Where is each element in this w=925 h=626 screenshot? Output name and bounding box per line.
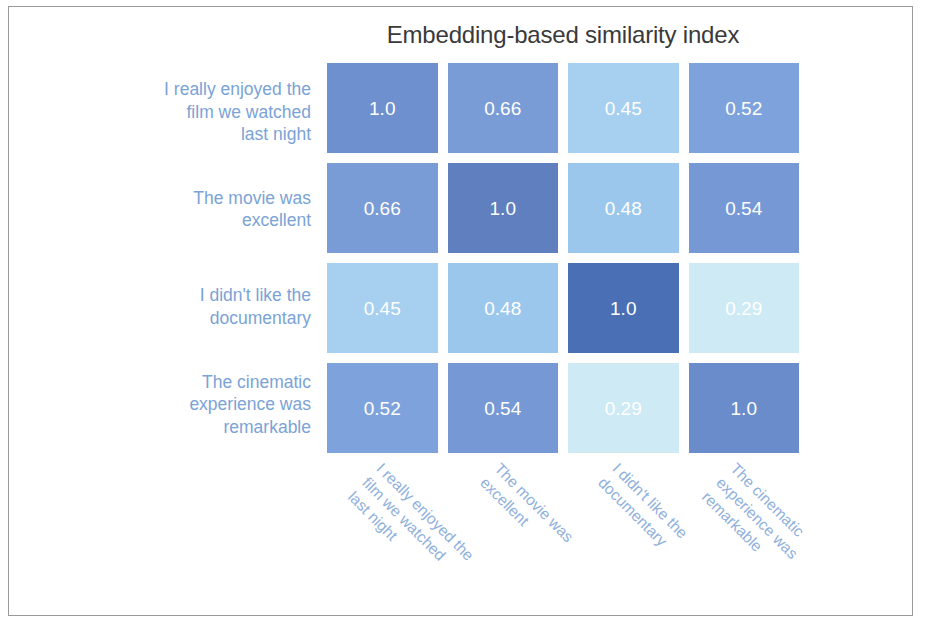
heatmap-cell-value: 0.54 — [484, 399, 521, 418]
page-title: Embedding-based similarity index — [327, 21, 799, 49]
y-tick-line: I really enjoyed the — [164, 78, 311, 101]
x-tick-label-2: I didn't like thedocumentary — [594, 459, 692, 557]
y-tick-line: last night — [164, 123, 311, 146]
heatmap-cell: 1.0 — [568, 263, 679, 353]
heatmap-cell: 0.29 — [689, 263, 800, 353]
heatmap-cell-value: 0.48 — [605, 199, 642, 218]
y-tick-1: The movie was excellent — [97, 161, 319, 259]
heatmap-cell-value: 0.29 — [605, 399, 642, 418]
heatmap-cell: 0.52 — [327, 363, 438, 453]
y-tick-2: I didn't like the documentary — [97, 258, 319, 356]
heatmap-cell-value: 0.52 — [364, 399, 401, 418]
heatmap-cell: 1.0 — [327, 63, 438, 153]
heatmap-cell: 1.0 — [689, 363, 800, 453]
y-axis-tick-labels: I really enjoyed the film we watched las… — [97, 63, 319, 453]
y-tick-0: I really enjoyed the film we watched las… — [97, 63, 319, 161]
y-tick-label-0: I really enjoyed the film we watched las… — [164, 78, 319, 146]
x-tick-0: I really enjoyed thefilm we watchedlast … — [327, 457, 445, 615]
x-tick-3: The cinematicexperience wasremarkable — [681, 457, 799, 615]
heatmap-cell-value: 0.29 — [725, 299, 762, 318]
heatmap-cell: 0.45 — [327, 263, 438, 353]
heatmap-cell: 0.52 — [689, 63, 800, 153]
y-tick-label-1: The movie was excellent — [193, 187, 319, 232]
heatmap-cell-value: 1.0 — [369, 99, 395, 118]
heatmap-cell: 0.48 — [448, 263, 559, 353]
heatmap-cell: 0.66 — [448, 63, 559, 153]
heatmap-cell: 0.66 — [327, 163, 438, 253]
y-tick-line: experience was — [189, 393, 311, 416]
heatmap-cell-value: 0.48 — [484, 299, 521, 318]
y-tick-label-2: I didn't like the documentary — [200, 284, 319, 329]
y-tick-line: remarkable — [189, 416, 311, 439]
y-tick-3: The cinematic experience was remarkable — [97, 356, 319, 454]
figure-panel: Embedding-based similarity index I reall… — [8, 6, 913, 616]
y-tick-label-3: The cinematic experience was remarkable — [189, 371, 319, 439]
y-tick-line: The cinematic — [189, 371, 311, 394]
y-tick-line: excellent — [193, 209, 311, 232]
heatmap-cell-value: 1.0 — [731, 399, 757, 418]
x-axis-tick-labels: I really enjoyed thefilm we watchedlast … — [327, 457, 799, 615]
heatmap-cell: 0.48 — [568, 163, 679, 253]
heatmap-cell: 0.54 — [448, 363, 559, 453]
y-tick-line: documentary — [200, 307, 311, 330]
y-tick-line: I didn't like the — [200, 284, 311, 307]
heatmap-cell-value: 1.0 — [610, 299, 636, 318]
heatmap-cell: 0.29 — [568, 363, 679, 453]
heatmap-grid: 1.00.660.450.520.661.00.480.540.450.481.… — [327, 63, 799, 453]
heatmap-cell-value: 0.52 — [725, 99, 762, 118]
heatmap-cell-value: 0.66 — [364, 199, 401, 218]
heatmap-cell-value: 0.45 — [364, 299, 401, 318]
heatmap-cell-value: 0.45 — [605, 99, 642, 118]
heatmap-cell-value: 0.54 — [725, 199, 762, 218]
heatmap-cell: 1.0 — [448, 163, 559, 253]
heatmap-cell-value: 1.0 — [490, 199, 516, 218]
heatmap-cell: 0.54 — [689, 163, 800, 253]
heatmap-cell: 0.45 — [568, 63, 679, 153]
x-tick-2: I didn't like thedocumentary — [563, 457, 681, 615]
x-tick-1: The movie wasexcellent — [445, 457, 563, 615]
x-tick-label-3: The cinematicexperience wasremarkable — [698, 459, 817, 578]
y-tick-line: The movie was — [193, 187, 311, 210]
y-tick-line: film we watched — [164, 101, 311, 124]
heatmap-cell-value: 0.66 — [484, 99, 521, 118]
